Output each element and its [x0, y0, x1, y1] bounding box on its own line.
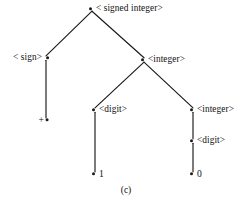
tree-node-label: 0 — [197, 169, 202, 179]
tree-node-label: + — [39, 115, 45, 125]
figure-caption: (c) — [0, 185, 252, 195]
node-dot-icon — [141, 58, 144, 61]
tree-node-label: <integer> — [197, 105, 234, 114]
node-dot-icon — [190, 108, 193, 111]
tree-edge-integer1-to-digit1 — [95, 62, 144, 108]
tree-edge-integer1-to-integer2 — [144, 62, 193, 108]
tree-node-label: <digit> — [99, 105, 127, 114]
tree-node-integer1: <integer> — [141, 55, 185, 64]
tree-node-integer2: <integer> — [190, 105, 234, 114]
tree-node-label: < sign> — [13, 53, 42, 62]
tree-edge-root-to-sign — [46, 11, 92, 56]
node-dot-icon — [92, 172, 95, 175]
tree-node-digit1: <digit> — [92, 105, 127, 114]
tree-node-label: < signed integer> — [96, 4, 163, 13]
parse-tree-figure: < signed integer>< sign><integer>+<digit… — [0, 0, 252, 206]
node-dot-icon — [46, 118, 49, 121]
tree-node-zero: 0 — [190, 169, 202, 179]
node-dot-icon — [190, 172, 193, 175]
tree-node-digit2: <digit> — [190, 136, 225, 145]
node-dot-icon — [92, 108, 95, 111]
tree-node-plus: + — [39, 115, 49, 125]
node-dot-icon — [46, 56, 49, 59]
tree-edge-root-to-integer1 — [92, 11, 144, 58]
node-dot-icon — [89, 7, 92, 10]
tree-node-label: 1 — [99, 169, 104, 179]
tree-node-root: < signed integer> — [89, 4, 163, 13]
tree-node-sign: < sign> — [13, 53, 49, 62]
tree-edges — [0, 0, 252, 206]
node-dot-icon — [190, 139, 193, 142]
tree-node-one: 1 — [92, 169, 104, 179]
tree-node-label: <digit> — [197, 136, 225, 145]
tree-node-label: <integer> — [148, 55, 185, 64]
